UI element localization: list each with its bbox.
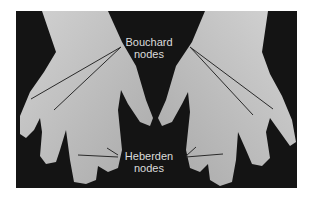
heberden-label-line1: Heberden — [114, 150, 184, 162]
bouchard-nodes-label: Bouchard nodes — [114, 36, 184, 60]
bouchard-label-line2: nodes — [114, 48, 184, 60]
hands-photo: Bouchard nodes Heberden nodes — [16, 11, 297, 188]
heberden-nodes-label: Heberden nodes — [114, 150, 184, 174]
bouchard-label-line1: Bouchard — [114, 36, 184, 48]
heberden-label-line2: nodes — [114, 162, 184, 174]
